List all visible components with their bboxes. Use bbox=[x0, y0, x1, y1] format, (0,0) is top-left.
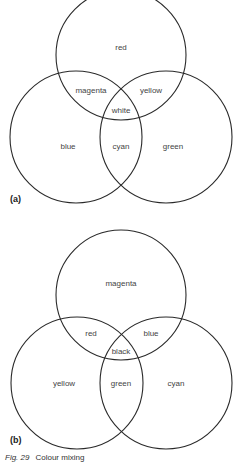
venn-diagrams bbox=[0, 0, 237, 465]
label-b-top: magenta bbox=[105, 279, 136, 288]
label-b-center: black bbox=[112, 347, 131, 356]
label-b-right: cyan bbox=[168, 379, 185, 388]
label-a-bottom-center: cyan bbox=[113, 142, 130, 151]
figure-caption-text: Colour mixing bbox=[35, 453, 84, 462]
venn-diagram-a bbox=[10, 0, 232, 203]
label-a-center: white bbox=[112, 106, 131, 115]
circle-red bbox=[56, 0, 186, 120]
label-a-top: red bbox=[115, 43, 127, 52]
label-a-top-right: yellow bbox=[140, 86, 162, 95]
label-a-left: blue bbox=[60, 142, 75, 151]
figure-number: Fig. 29 bbox=[5, 453, 29, 462]
label-b-left: yellow bbox=[53, 379, 75, 388]
label-b-top-right: blue bbox=[143, 329, 158, 338]
venn-diagram-b bbox=[11, 230, 232, 449]
circle-green bbox=[100, 71, 232, 203]
diagram-a-tag: (a) bbox=[10, 194, 21, 204]
label-b-top-left: red bbox=[85, 329, 97, 338]
label-a-top-left: magenta bbox=[75, 86, 106, 95]
label-a-right: green bbox=[163, 142, 183, 151]
diagram-b-tag: (b) bbox=[10, 435, 22, 445]
label-b-bottom-center: green bbox=[111, 379, 131, 388]
figure-caption: Fig. 29Colour mixing bbox=[5, 453, 84, 462]
circle-magenta bbox=[56, 230, 186, 360]
